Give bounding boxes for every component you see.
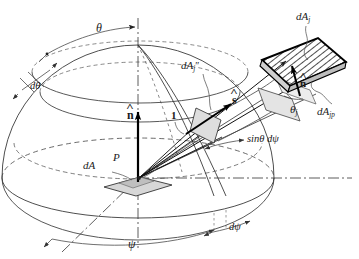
label-psi: ψ	[128, 238, 135, 250]
label-s-hat: s	[232, 94, 237, 106]
solid-angle-diagram: θ dθ ψ dψ 1 P dA dAj dAj″ dAjp θj n n s …	[0, 0, 359, 259]
theta-angle-arc	[39, 27, 135, 62]
label-theta-j: θj	[290, 104, 297, 117]
label-dAj-doubleprime: dAj″	[181, 60, 199, 73]
label-dAjp-text: dA	[317, 105, 329, 117]
label-n-hat-surface: n	[300, 78, 306, 89]
label-n-hat-origin-text: n	[127, 109, 134, 121]
label-dAj: dAj	[296, 11, 310, 24]
leader-one	[175, 122, 184, 134]
label-theta: θ	[96, 22, 102, 34]
label-n-hat-origin: n	[127, 109, 134, 121]
label-dAjp: dAjp	[317, 106, 335, 119]
dpsi-bracket	[204, 210, 250, 236]
label-dAj-dp-text: dA	[181, 59, 193, 71]
label-dAj-subscript: j	[308, 16, 310, 24]
label-dAjp-subscript: jp	[329, 111, 335, 119]
label-dAj-dp-primes: ″	[195, 60, 199, 71]
label-dtheta: dθ	[30, 81, 40, 92]
diagram-canvas	[0, 0, 359, 259]
label-unit-radius: 1	[171, 110, 177, 121]
label-s-hat-text: s	[232, 94, 237, 106]
label-n-hat-surface-text: n	[300, 78, 306, 89]
leader-dAj-doubleprime	[203, 74, 211, 110]
label-theta-j-subscript: j	[295, 109, 297, 117]
label-sin-theta-dpsi: sinθ dψ	[247, 134, 279, 145]
leader-dA	[112, 172, 132, 180]
label-dAj-text: dA	[296, 10, 308, 22]
label-dpsi: dψ	[229, 222, 241, 233]
label-point-p: P	[113, 152, 120, 163]
label-dA: dA	[83, 160, 95, 171]
